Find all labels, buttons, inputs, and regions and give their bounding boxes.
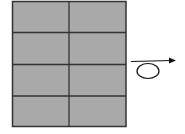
loop-arrow-icon <box>131 58 176 79</box>
loop-arrow-line <box>131 61 172 62</box>
diagram-canvas <box>0 0 185 134</box>
arrowhead-icon <box>169 58 176 64</box>
grid-sheet <box>13 2 127 127</box>
loop-icon <box>137 64 159 79</box>
